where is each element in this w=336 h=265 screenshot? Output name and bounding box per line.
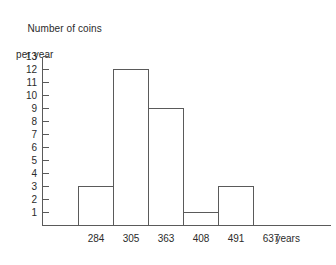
x-tick-label: 363 <box>158 233 175 244</box>
histogram-chart: Number of coins per year 131211109876543… <box>0 0 336 265</box>
plot-area: 13121110987654321 284305363408491637 yea… <box>0 0 336 265</box>
x-tick-label: 305 <box>123 233 140 244</box>
y-tick-label: 9 <box>31 103 37 114</box>
x-tick-label: 408 <box>193 233 210 244</box>
x-tick-label: 491 <box>228 233 245 244</box>
x-tick-labels: 284305363408491637 <box>88 233 280 244</box>
x-tick-label: 284 <box>88 233 105 244</box>
y-tick-label: 2 <box>31 194 37 205</box>
x-axis-unit-label: years <box>276 233 300 244</box>
bar <box>79 187 114 226</box>
y-tick-label: 8 <box>31 116 37 127</box>
y-tick-label: 5 <box>31 155 37 166</box>
bar <box>114 70 149 226</box>
y-tick-label: 7 <box>31 129 37 140</box>
bar <box>219 187 254 226</box>
bar <box>149 109 184 226</box>
y-tick-label: 13 <box>26 51 38 62</box>
y-tick-label: 3 <box>31 181 37 192</box>
y-tick-label: 6 <box>31 142 37 153</box>
y-tick-label: 12 <box>26 64 38 75</box>
y-tick-label: 10 <box>26 90 38 101</box>
y-tick-labels: 13121110987654321 <box>26 51 38 218</box>
y-tick-label: 11 <box>27 77 38 88</box>
y-tick-label: 4 <box>31 168 37 179</box>
bar-series <box>79 70 254 226</box>
y-tick-marks <box>43 57 49 213</box>
bar <box>184 213 219 226</box>
y-tick-label: 1 <box>31 207 37 218</box>
